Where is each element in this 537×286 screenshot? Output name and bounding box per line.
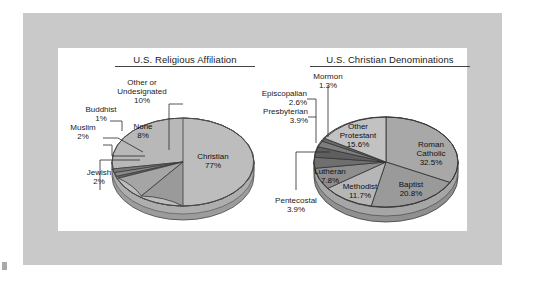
label-methodist: Methodist 11.7% [334, 182, 386, 200]
left-chart-title: U.S. Religious Affiliation [115, 54, 255, 67]
label-christian: Christian 77% [190, 152, 236, 170]
label-episcopalian: Episcopalian 2.6% [252, 89, 307, 107]
label-presbyterian: Presbyterian 3.9% [252, 107, 308, 125]
label-jewish: Jewish 2% [76, 168, 122, 186]
label-other-protestant: Other Protestant 15.6% [330, 122, 386, 150]
label-buddhist: Buddhist 1% [76, 105, 126, 123]
figure-container: U.S. Religious Affiliation U.S. Christia… [0, 0, 537, 286]
label-pentecostal: Pentecostal 3.9% [264, 196, 328, 214]
label-roman-catholic: Roman Catholic 32.5% [406, 140, 456, 168]
pies-svg [0, 0, 537, 286]
label-none: None 8% [126, 122, 160, 140]
label-other-undesignated: Other or Undesignated 10% [107, 78, 177, 106]
label-muslim: Muslim 2% [62, 123, 104, 141]
right-chart-title: U.S. Christian Denominations [310, 54, 470, 67]
label-mormon: Mormon 1.3% [300, 72, 356, 90]
label-baptist: Baptist 20.8% [388, 180, 434, 198]
